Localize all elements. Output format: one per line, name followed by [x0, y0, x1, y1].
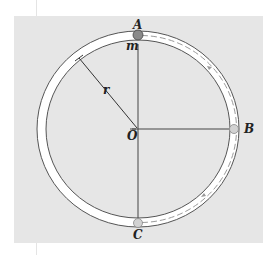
label-B: B — [243, 122, 254, 136]
label-O: O — [127, 129, 138, 143]
particle-at-C — [134, 219, 143, 228]
label-C: C — [133, 228, 143, 242]
particle-at-B — [230, 125, 239, 134]
circular-tube-diagram: A m B C O r — [0, 0, 272, 255]
label-m: m — [126, 39, 139, 53]
label-A: A — [132, 18, 142, 32]
